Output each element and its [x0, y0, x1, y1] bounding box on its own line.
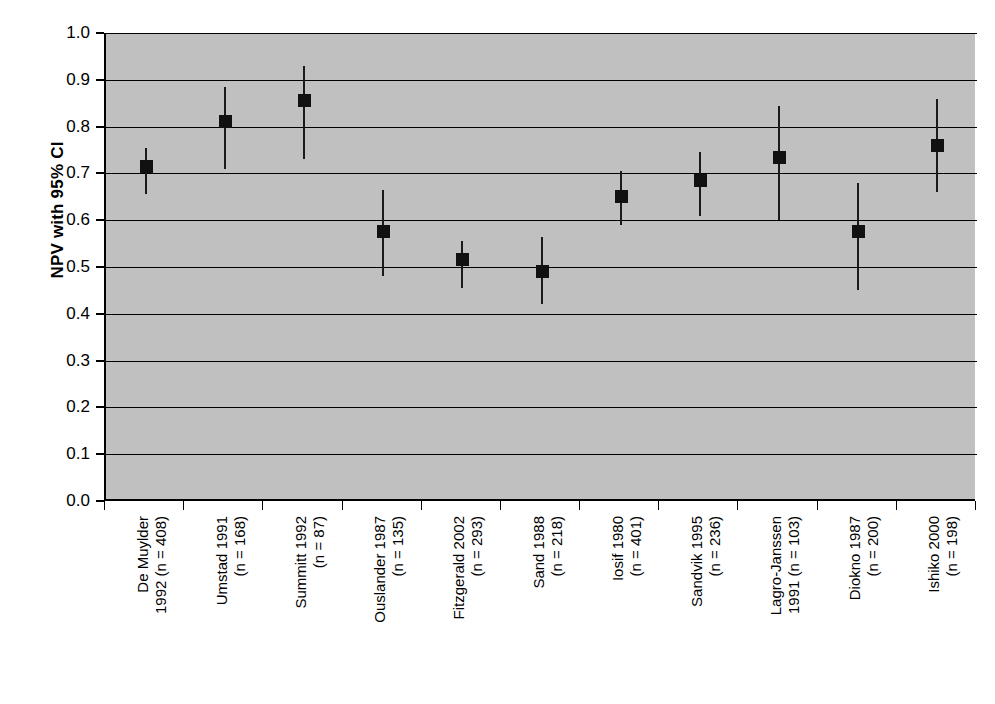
x-tick-label: Iosif 1980 — [609, 516, 627, 694]
data-point — [922, 33, 952, 501]
x-tick-mark — [975, 501, 976, 510]
forest-plot-figure: NPV with 95% CI 1.00.90.80.70.60.50.40.3… — [0, 0, 995, 704]
x-tick-mark — [737, 501, 738, 510]
point-marker — [931, 139, 944, 152]
x-tick-label: Sandvik 1995 — [688, 516, 706, 694]
point-marker — [456, 253, 469, 266]
x-tick-mark — [183, 501, 184, 510]
x-tick-label-line2: (n = 87) — [310, 516, 328, 694]
y-tick-mark — [96, 266, 104, 268]
y-tick-mark — [96, 360, 104, 362]
data-point — [210, 33, 240, 501]
y-tick-mark — [96, 79, 104, 81]
x-tick-mark — [896, 501, 897, 510]
point-marker — [377, 225, 390, 238]
x-tick-label: De Muylder — [134, 516, 152, 694]
y-tick-label: 0.1 — [34, 445, 90, 462]
data-point — [606, 33, 636, 501]
x-tick-label-line2: 1992 (n = 408) — [152, 516, 170, 694]
y-tick-label: 0.4 — [34, 305, 90, 322]
x-tick-mark — [262, 501, 263, 510]
y-tick-label: 0.3 — [34, 352, 90, 369]
y-axis-tick-labels: 1.00.90.80.70.60.50.40.30.20.10.0 — [34, 0, 90, 704]
data-point — [368, 33, 398, 501]
y-tick-label: 0.9 — [34, 71, 90, 88]
x-tick-label-line2: (n = 135) — [389, 516, 407, 694]
y-tick-mark — [96, 126, 104, 128]
confidence-interval-bar — [303, 66, 305, 160]
x-tick-label-line2: (n = 198) — [943, 516, 961, 694]
x-tick-label-line2: (n = 236) — [706, 516, 724, 694]
x-tick-mark — [817, 501, 818, 510]
point-marker — [615, 190, 628, 203]
point-marker — [140, 160, 153, 173]
x-tick-label: Fitzgerald 2002 — [450, 516, 468, 694]
x-axis-tick-labels: De Muylder1992 (n = 408)Umstad 1991(n = … — [104, 512, 977, 702]
y-tick-mark — [96, 500, 104, 502]
y-tick-mark — [96, 406, 104, 408]
x-tick-label: Sand 1988 — [530, 516, 548, 694]
x-tick-label-line2: (n = 168) — [231, 516, 249, 694]
y-tick-label: 0.0 — [34, 492, 90, 509]
x-tick-mark — [579, 501, 580, 510]
y-tick-mark — [96, 172, 104, 174]
data-point — [764, 33, 794, 501]
x-tick-mark — [500, 501, 501, 510]
point-marker — [773, 151, 786, 164]
y-tick-mark — [96, 219, 104, 221]
data-point — [289, 33, 319, 501]
point-marker — [852, 225, 865, 238]
x-tick-label: Umstad 1991 — [213, 516, 231, 694]
x-tick-label-line2: (n = 218) — [548, 516, 566, 694]
y-tick-label: 0.7 — [34, 164, 90, 181]
point-marker — [536, 265, 549, 278]
x-tick-mark — [658, 501, 659, 510]
data-point — [685, 33, 715, 501]
x-tick-mark — [342, 501, 343, 510]
x-tick-label: Ishiko 2000 — [925, 516, 943, 694]
x-tick-mark — [421, 501, 422, 510]
y-tick-label: 1.0 — [34, 24, 90, 41]
y-tick-mark — [96, 453, 104, 455]
x-tick-label: Diokno 1987 — [846, 516, 864, 694]
x-tick-label-line2: (n = 401) — [627, 516, 645, 694]
plot-area — [104, 33, 975, 501]
y-tick-mark — [96, 313, 104, 315]
point-marker — [694, 174, 707, 187]
x-tick-label-line2: 1991 (n = 103) — [785, 516, 803, 694]
x-tick-mark — [104, 501, 105, 510]
y-tick-label: 0.2 — [34, 398, 90, 415]
data-point — [527, 33, 557, 501]
x-tick-label-line2: (n = 200) — [864, 516, 882, 694]
data-point — [843, 33, 873, 501]
x-axis-tick-marks — [104, 501, 977, 511]
y-tick-label: 0.5 — [34, 258, 90, 275]
x-tick-label: Summitt 1992 — [292, 516, 310, 694]
point-marker — [219, 115, 232, 128]
y-tick-mark — [96, 32, 104, 34]
y-tick-label: 0.8 — [34, 118, 90, 135]
x-tick-label: Ouslander 1987 — [371, 516, 389, 694]
data-point — [131, 33, 161, 501]
x-tick-label-line2: (n = 293) — [468, 516, 486, 694]
data-point — [447, 33, 477, 501]
y-tick-label: 0.6 — [34, 211, 90, 228]
point-marker — [298, 94, 311, 107]
x-tick-label: Lagro-Janssen — [767, 516, 785, 694]
